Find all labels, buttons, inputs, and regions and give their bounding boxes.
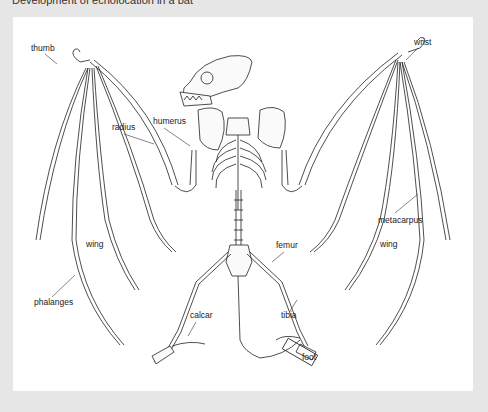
- label-metacarpus: metacarpus: [378, 215, 422, 225]
- left-scapula: [198, 108, 224, 150]
- label-wing-right: wing: [379, 239, 398, 249]
- label-thumb: thumb: [31, 43, 55, 53]
- label-calcar: calcar: [190, 310, 213, 320]
- bat-skeleton-diagram: thumb wrist radius humerus metacarpus wi…: [0, 0, 488, 412]
- right-wing: [282, 37, 450, 345]
- skull: [180, 56, 252, 106]
- label-radius: radius: [112, 122, 135, 132]
- label-phalanges: phalanges: [34, 297, 73, 307]
- right-scapula: [258, 107, 285, 148]
- label-tibia: tibia: [281, 310, 297, 320]
- label-femur: femur: [276, 240, 298, 250]
- label-foot: foot: [302, 352, 317, 362]
- label-humerus: humerus: [153, 116, 186, 126]
- label-wing-left: wing: [85, 239, 104, 249]
- pelvis: [226, 245, 252, 276]
- spine: [234, 190, 243, 245]
- label-wrist: wrist: [413, 37, 432, 47]
